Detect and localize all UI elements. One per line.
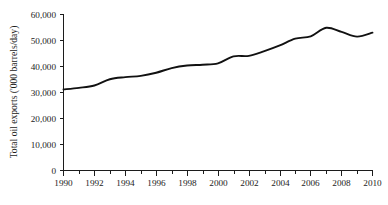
y-tick-label: 10,000 xyxy=(31,140,57,150)
y-axis-tick-labels: 0 10,000 20,000 30,000 40,000 50,000 60,… xyxy=(31,10,57,176)
x-tick-label: 2002 xyxy=(240,178,259,188)
y-tick-label: 30,000 xyxy=(31,88,57,98)
y-tick-label: 50,000 xyxy=(31,36,57,46)
data-series-line xyxy=(64,28,373,90)
y-tick-label: 20,000 xyxy=(31,114,57,124)
x-tick-label: 2006 xyxy=(301,178,320,188)
x-tick-label: 2010 xyxy=(363,178,382,188)
y-tick-label: 40,000 xyxy=(31,62,57,72)
x-tick-label: 1992 xyxy=(85,178,104,188)
y-tick-label: 60,000 xyxy=(31,10,57,20)
x-tick-label: 2000 xyxy=(209,178,228,188)
chart-figure: 0 10,000 20,000 30,000 40,000 50,000 60,… xyxy=(0,0,388,205)
y-axis-ticks xyxy=(60,15,64,171)
x-tick-label: 2008 xyxy=(332,178,351,188)
y-tick-label: 0 xyxy=(51,166,56,176)
x-tick-label: 1996 xyxy=(147,178,166,188)
x-tick-label: 1990 xyxy=(54,178,73,188)
y-axis-title: Total oil exports ('000 barrels/day) xyxy=(8,26,20,159)
x-tick-label: 1998 xyxy=(178,178,197,188)
x-tick-label: 2004 xyxy=(271,178,290,188)
x-tick-label: 1994 xyxy=(116,178,135,188)
x-axis-tick-labels: 1990 1992 1994 1996 1998 2000 2002 2004 … xyxy=(54,178,382,188)
line-chart: 0 10,000 20,000 30,000 40,000 50,000 60,… xyxy=(0,0,388,205)
